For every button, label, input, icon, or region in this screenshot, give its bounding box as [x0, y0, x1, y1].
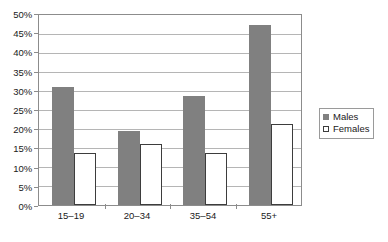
x-axis-tick-label: 35–54	[170, 210, 236, 228]
bar-slot-males	[183, 15, 205, 205]
y-axis-tick-label: 15%	[13, 143, 32, 154]
y-axis-tick-label: 0%	[18, 201, 32, 212]
bar-males[interactable]	[249, 25, 271, 205]
chart-legend: Males Females	[319, 108, 374, 139]
bar-males[interactable]	[118, 131, 140, 205]
legend-swatch-icon-females	[323, 126, 329, 132]
y-axis-tick-label: 35%	[13, 66, 32, 77]
bar-males[interactable]	[52, 87, 74, 205]
bar-slot-females	[140, 15, 162, 205]
bar-females[interactable]	[74, 153, 96, 205]
x-axis-tick-label: 20–34	[104, 210, 170, 228]
y-axis-tick-label: 5%	[18, 181, 32, 192]
category-separator	[236, 204, 237, 209]
category-separator	[105, 204, 106, 209]
y-axis-labels: 50% 45% 40% 35% 30% 25% 20% 15% 10% 5% 0…	[0, 14, 36, 206]
plot-area	[38, 14, 302, 206]
x-axis-tick-label: 15–19	[38, 210, 104, 228]
bar-slot-males	[118, 15, 140, 205]
legend-item-males[interactable]: Males	[323, 111, 369, 123]
y-axis-tick-label: 30%	[13, 85, 32, 96]
bar-group	[39, 15, 105, 205]
bar-group	[170, 15, 236, 205]
bar-slot-females	[271, 15, 293, 205]
x-axis-labels: 15–19 20–34 35–54 55+	[38, 210, 302, 228]
legend-label-females: Females	[333, 123, 369, 135]
bar-group	[236, 15, 302, 205]
y-axis-tick-label: 20%	[13, 124, 32, 135]
bar-group	[105, 15, 171, 205]
bar-groups	[39, 15, 301, 205]
category-separator	[170, 204, 171, 209]
y-axis-tick-label: 25%	[13, 105, 32, 116]
y-axis-tick-label: 45%	[13, 28, 32, 39]
bar-females[interactable]	[140, 144, 162, 205]
bar-females[interactable]	[271, 124, 293, 205]
y-axis-tick-label: 50%	[13, 9, 32, 20]
bar-slot-females	[74, 15, 96, 205]
bar-males[interactable]	[183, 96, 205, 205]
bar-slot-males	[249, 15, 271, 205]
bar-chart: 50% 45% 40% 35% 30% 25% 20% 15% 10% 5% 0…	[0, 0, 388, 242]
x-axis-tick-label: 55+	[236, 210, 302, 228]
legend-swatch-icon-males	[323, 114, 329, 120]
legend-label-males: Males	[333, 111, 358, 123]
y-axis-tick	[34, 206, 38, 207]
y-axis-tick-label: 40%	[13, 47, 32, 58]
bar-slot-females	[205, 15, 227, 205]
bar-females[interactable]	[205, 153, 227, 205]
bar-slot-males	[52, 15, 74, 205]
legend-item-females[interactable]: Females	[323, 123, 369, 135]
y-axis-tick-label: 10%	[13, 162, 32, 173]
